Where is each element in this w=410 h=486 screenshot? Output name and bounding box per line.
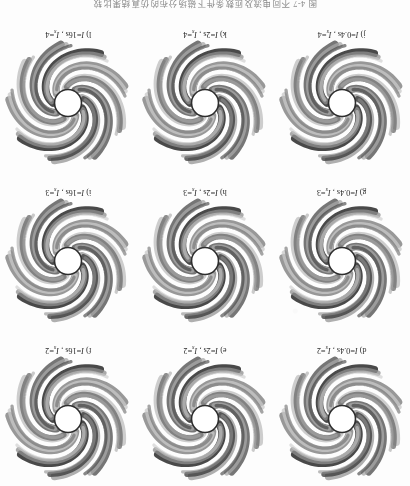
spiral-plot-g	[279, 198, 405, 324]
panel-caption-f: f) I=16s , Is=2	[45, 345, 91, 355]
scanned-figure-page: d) I=0.4s , Is=2e) I=2s , Is=2f) I=16s ,…	[0, 0, 410, 486]
spiral-plot-j	[279, 40, 405, 166]
panel-d: d) I=0.4s , Is=2	[273, 328, 410, 486]
panel-caption-k: k) I=2s , Is=4	[183, 29, 227, 39]
panel-l: l) I=16s , Is=4	[0, 12, 137, 170]
panel-grid: d) I=0.4s , Is=2e) I=2s , Is=2f) I=16s ,…	[0, 12, 410, 486]
spiral-plot-e	[142, 356, 268, 482]
spiral-plot-f	[5, 356, 131, 482]
core-circle	[192, 90, 219, 117]
spiral-plot-i	[5, 198, 131, 324]
panel-g: g) I=0.4s , Is=3	[273, 170, 410, 328]
panel-caption-i: i) I=16s , Is=3	[45, 187, 91, 197]
core-circle	[55, 406, 82, 433]
core-circle	[328, 406, 355, 433]
panel-caption-e: e) I=2s , Is=2	[183, 345, 226, 355]
core-circle	[192, 248, 219, 275]
spiral-plot-k	[142, 40, 268, 166]
figure-caption: 图 4-7 不同电流及匝数条件下磁场分布的仿真结果比较	[0, 0, 410, 11]
spiral-plot-l	[5, 40, 131, 166]
core-circle	[55, 90, 82, 117]
panel-j: j) I=0.4s , Is=4	[273, 12, 410, 170]
panel-caption-g: g) I=0.4s , Is=3	[317, 187, 367, 197]
panel-i: i) I=16s , Is=3	[0, 170, 137, 328]
panel-caption-j: j) I=0.4s , Is=4	[318, 29, 366, 39]
core-circle	[328, 248, 355, 275]
panel-f: f) I=16s , Is=2	[0, 328, 137, 486]
panel-caption-h: h) I=2s , Is=3	[183, 187, 227, 197]
panel-caption-d: d) I=0.4s , Is=2	[317, 345, 367, 355]
panel-h: h) I=2s , Is=3	[137, 170, 274, 328]
core-circle	[328, 90, 355, 117]
spiral-plot-d	[279, 356, 405, 482]
panel-e: e) I=2s , Is=2	[137, 328, 274, 486]
spiral-plot-h	[142, 198, 268, 324]
core-circle	[192, 406, 219, 433]
panel-caption-l: l) I=16s , Is=4	[45, 29, 91, 39]
panel-k: k) I=2s , Is=4	[137, 12, 274, 170]
core-circle	[55, 248, 82, 275]
